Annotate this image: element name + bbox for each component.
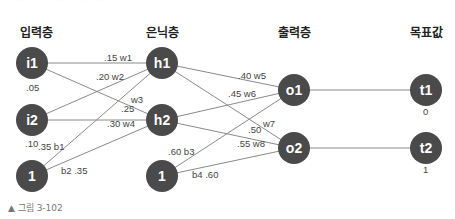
value-t2: 1: [423, 164, 428, 175]
edge-b3-o1: [162, 90, 294, 176]
weight-w4: .30 w4: [107, 118, 135, 129]
edge-h1-o1: [162, 63, 294, 90]
edges: [32, 63, 426, 176]
weight-w1: .15 w1: [104, 52, 132, 63]
bias-b4: b4 .60: [192, 169, 218, 180]
node-o1-label: o1: [286, 82, 303, 98]
weight-w6: .45 w6: [228, 88, 256, 99]
node-o2-label: o2: [286, 140, 303, 156]
bias-b2: b2 .35: [61, 165, 87, 176]
node-i1-label: i1: [26, 55, 38, 71]
figure-caption: ▲ 그림 3-102: [8, 201, 63, 214]
value-i1: .05: [26, 82, 39, 93]
node-bias-hidden-label: 1: [158, 168, 166, 184]
bias-b1: .35 b1: [38, 141, 64, 152]
weight-w3-value: .25: [121, 103, 134, 114]
node-i2-label: i2: [26, 112, 38, 128]
value-t1: 0: [423, 106, 428, 117]
node-t1-label: t1: [420, 82, 433, 98]
node-h2-label: h2: [154, 112, 171, 128]
value-i2: .10: [25, 138, 38, 149]
weight-w7: w7: [262, 118, 275, 129]
bias-b3: .60 b3: [168, 146, 194, 157]
weight-w5: .40 w5: [238, 70, 266, 81]
node-h1-label: h1: [154, 55, 171, 71]
node-bias-input-label: 1: [28, 168, 36, 184]
node-t2-label: t2: [420, 140, 433, 156]
weight-w8: .55 w8: [237, 138, 265, 149]
weight-w2: .20 w2: [96, 71, 124, 82]
weight-w7-value: .50: [248, 124, 261, 135]
network-diagram: i1 i2 1 h1 h2 1 o1 o2 t1 t2 .05 .10 0 1 …: [0, 0, 455, 219]
